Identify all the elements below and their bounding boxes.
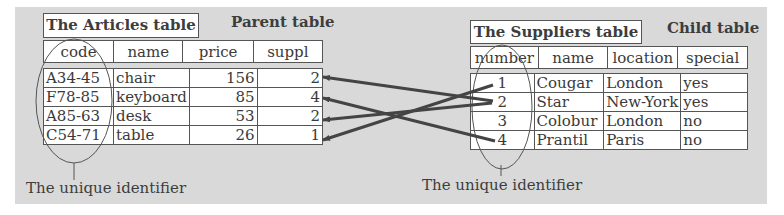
articles-identifier-ellipse: [36, 39, 112, 163]
relationship-overlay: [0, 0, 784, 215]
arrow-supplier-2-to-article-1: [323, 77, 493, 101]
suppliers-identifier-ellipse: [472, 45, 532, 169]
arrow-supplier-1-to-article-4: [323, 85, 493, 140]
